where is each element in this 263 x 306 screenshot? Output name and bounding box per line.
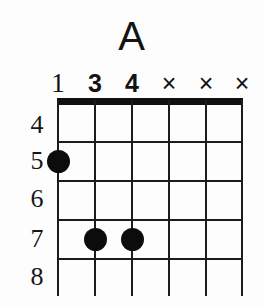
fret-line-4 [57,258,243,260]
finger-dot-string3-fret7 [121,228,144,251]
string-line-4 [168,100,170,296]
finger-dot-string1-fret5 [47,150,70,173]
string-line-2 [94,100,96,296]
string-line-6 [241,100,243,296]
fret-line-2 [57,180,243,182]
fret-number-7: 7 [22,226,52,252]
chord-diagram: A 1 3 4 × × × 4 5 6 7 8 [0,0,263,306]
fret-number-8: 8 [22,264,52,290]
fret-number-6: 6 [22,186,52,212]
fret-line-3 [57,219,243,221]
fret-number-4: 4 [22,112,52,138]
fret-line-1 [57,141,243,143]
nut-bar [57,98,243,105]
string-line-1 [57,100,59,296]
string-line-3 [131,100,133,296]
string-line-5 [205,100,207,296]
finger-dot-string2-fret7 [84,228,107,251]
